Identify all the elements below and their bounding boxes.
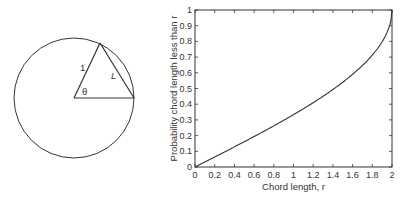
- x-tick-label: 0.8: [268, 170, 281, 180]
- y-tick-label: 0: [187, 162, 192, 172]
- y-tick-label: 0.1: [179, 146, 192, 156]
- y-tick-label: 0.4: [179, 99, 192, 109]
- x-tick-label: 0: [192, 170, 197, 180]
- y-axis-ticks: 00.10.20.30.40.50.60.70.80.91: [179, 5, 392, 172]
- radius-label: 1: [80, 62, 85, 73]
- chord-label: L: [111, 70, 116, 81]
- y-tick-label: 0.6: [179, 68, 192, 78]
- circle-diagram: 1 θ L: [14, 38, 134, 158]
- plot-frame: [195, 10, 392, 167]
- y-tick-label: 0.3: [179, 115, 192, 125]
- x-tick-label: 0.6: [248, 170, 261, 180]
- figure: 1 θ L 00.20.40.60.811.21.41.61.82 00.10.…: [0, 0, 413, 205]
- x-tick-label: 0.4: [228, 170, 241, 180]
- data-line: [195, 10, 392, 167]
- x-tick-label: 1: [291, 170, 296, 180]
- y-tick-label: 0.7: [179, 52, 192, 62]
- y-tick-label: 0.9: [179, 21, 192, 31]
- y-tick-label: 0.5: [179, 84, 192, 94]
- x-tick-label: 1.4: [327, 170, 340, 180]
- y-tick-label: 0.2: [179, 131, 192, 141]
- angle-label: θ: [82, 86, 87, 97]
- x-axis-label: Chord length, r: [262, 181, 325, 192]
- chart: 00.20.40.60.811.21.41.61.82 00.10.20.30.…: [168, 5, 395, 192]
- x-tick-label: 0.2: [208, 170, 221, 180]
- x-tick-label: 1.6: [346, 170, 359, 180]
- x-tick-label: 1.8: [366, 170, 379, 180]
- chord-line: [100, 43, 134, 98]
- x-axis-ticks: 00.20.40.60.811.21.41.61.82: [192, 10, 394, 180]
- x-tick-label: 2: [389, 170, 394, 180]
- y-tick-label: 1: [187, 5, 192, 15]
- x-tick-label: 1.2: [307, 170, 320, 180]
- y-tick-label: 0.8: [179, 36, 192, 46]
- y-axis-label: Probability chord length less than r: [168, 16, 179, 162]
